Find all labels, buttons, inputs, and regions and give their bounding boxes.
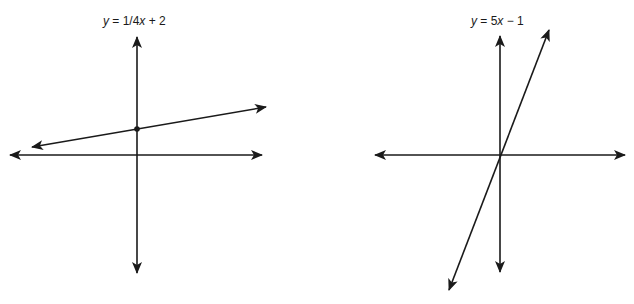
- graph-1-equation-label: y = 1/4x + 2: [103, 14, 166, 28]
- graph-2-equation-label: y = 5x − 1: [471, 14, 524, 28]
- equation-part: = 1/4: [109, 14, 139, 28]
- equation-part: + 2: [145, 14, 165, 28]
- graph-2: [375, 30, 625, 290]
- graph-1-line: [32, 107, 266, 147]
- graph-1-y-intercept-dot: [134, 126, 140, 132]
- graph-2-line: [449, 30, 549, 290]
- graphs-canvas: [0, 0, 634, 304]
- equation-part: − 1: [503, 14, 523, 28]
- graph-1: [10, 37, 266, 273]
- equation-part: = 5: [477, 14, 497, 28]
